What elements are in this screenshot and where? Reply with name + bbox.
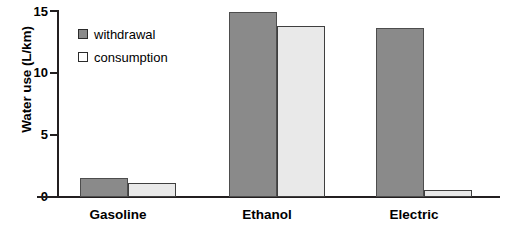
bar-chart: Water use (L/km) 15 10 5 0 Gasoline Etha… bbox=[0, 0, 509, 236]
legend-item-withdrawal: withdrawal bbox=[78, 24, 168, 44]
filled-gray-square-icon bbox=[78, 29, 88, 39]
y-tick-label-15: 15 bbox=[8, 5, 48, 18]
y-tick-label-5: 5 bbox=[8, 128, 48, 141]
bar-electric-withdrawal bbox=[376, 28, 424, 197]
bar-gasoline-consumption bbox=[128, 183, 176, 197]
legend-label-consumption: consumption bbox=[94, 51, 168, 64]
bar-ethanol-withdrawal bbox=[229, 12, 277, 197]
legend-item-consumption: consumption bbox=[78, 47, 168, 67]
bar-gasoline-withdrawal bbox=[80, 178, 128, 197]
outlined-white-square-icon bbox=[78, 52, 88, 62]
bar-ethanol-consumption bbox=[277, 26, 325, 197]
chart-legend: withdrawal consumption bbox=[78, 24, 168, 70]
legend-label-withdrawal: withdrawal bbox=[94, 28, 155, 41]
x-category-label-ethanol: Ethanol bbox=[204, 207, 330, 222]
y-tick-mark-10 bbox=[50, 72, 57, 74]
bar-electric-consumption bbox=[424, 190, 472, 197]
y-tick-mark-5 bbox=[50, 134, 57, 136]
y-tick-mark-15 bbox=[50, 10, 57, 12]
x-category-label-electric: Electric bbox=[351, 207, 477, 222]
x-category-label-gasoline: Gasoline bbox=[55, 207, 181, 222]
y-tick-label-10: 10 bbox=[8, 66, 48, 79]
